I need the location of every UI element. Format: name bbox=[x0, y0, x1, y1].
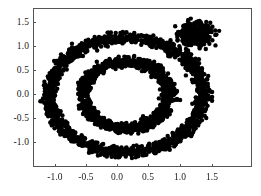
scatter-plot-figure: 1.5 1.0 0.5 0.0 -0.5 -1.0 -1.0 -0.5 0.0 … bbox=[0, 0, 261, 196]
x-tick-label-neg-0-5: -0.5 bbox=[78, 172, 93, 182]
x-tick-mark-0-5 bbox=[148, 164, 149, 167]
x-tick-mark-0-0 bbox=[117, 164, 118, 167]
x-tick-label-0-0: 0.0 bbox=[111, 172, 123, 182]
x-tick-mark-neg-0-5 bbox=[86, 164, 87, 167]
x-axis-labels: -1.0 -0.5 0.0 0.5 1.0 1.5 bbox=[0, 0, 261, 196]
x-tick-label-1-0: 1.0 bbox=[174, 172, 186, 182]
x-tick-label-1-5: 1.5 bbox=[206, 172, 218, 182]
x-tick-label-0-5: 0.5 bbox=[142, 172, 154, 182]
x-tick-label-neg-1-0: -1.0 bbox=[47, 172, 62, 182]
x-tick-mark-1-5 bbox=[212, 164, 213, 167]
x-tick-mark-1-0 bbox=[180, 164, 181, 167]
x-tick-mark-neg-1-0 bbox=[55, 164, 56, 167]
